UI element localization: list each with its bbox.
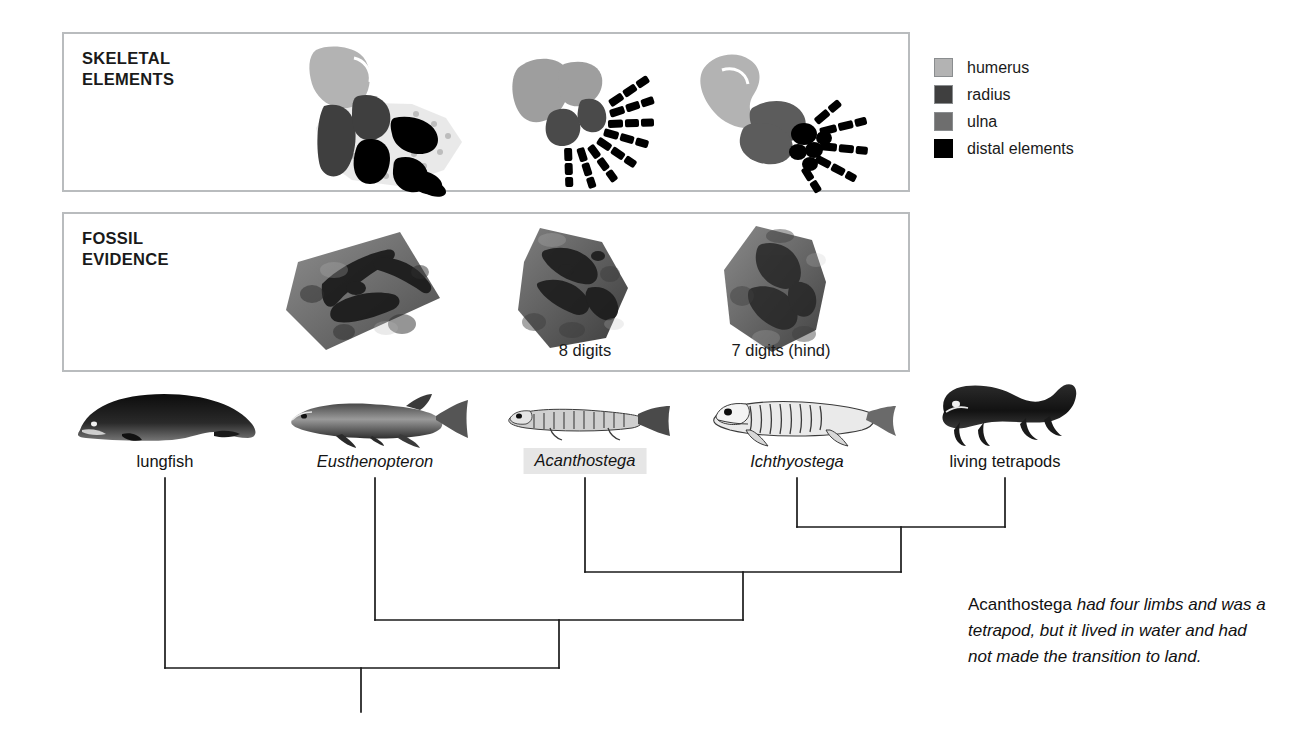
- acanthostega-limb-diagram: [502, 52, 667, 182]
- caption-lead: Acanthostega: [968, 595, 1072, 614]
- fossil-digit-label-ichthyostega: 7 digits (hind): [691, 341, 871, 360]
- legend-item-humerus: humerus: [934, 54, 1184, 81]
- taxon-label-acanthostega: Acanthostega: [524, 448, 647, 474]
- legend-item-ulna: ulna: [934, 108, 1184, 135]
- skeletal-elements-panel: SKELETAL ELEMENTS: [62, 32, 910, 192]
- salamander-silhouette: [930, 378, 1080, 450]
- legend-item-distal-elements: distal elements: [934, 135, 1184, 162]
- living-tetrapod-limb-diagram: [692, 48, 877, 188]
- legend: humerus radius ulna distal elements: [934, 54, 1184, 162]
- lungfish-silhouette: [72, 388, 262, 448]
- legend-item-radius: radius: [934, 81, 1184, 108]
- legend-label-ulna: ulna: [967, 114, 997, 130]
- caption: Acanthostega had four limbs and was a te…: [968, 592, 1268, 669]
- ichthyostega-fossil-photo: [708, 226, 853, 356]
- taxon-label-ichthyostega: Ichthyostega: [750, 452, 844, 471]
- taxon-label-eusthenopteron: Eusthenopteron: [317, 452, 434, 471]
- legend-label-humerus: humerus: [967, 60, 1029, 76]
- legend-swatch-humerus: [934, 58, 953, 77]
- legend-label-radius: radius: [967, 87, 1011, 103]
- legend-swatch-radius: [934, 85, 953, 104]
- figure-root: SKELETAL ELEMENTS: [0, 0, 1300, 756]
- taxon-label-living-tetrapods: living tetrapods: [950, 452, 1061, 471]
- legend-swatch-distal-elements: [934, 139, 953, 158]
- fossil-digit-label-acanthostega: 8 digits: [525, 341, 645, 360]
- ichthyostega-skeleton: [706, 392, 896, 448]
- acanthostega-fossil-photo: [506, 226, 646, 351]
- fossil-evidence-title: FOSSIL EVIDENCE: [82, 228, 169, 270]
- eusthenopteron-limb-diagram: [294, 44, 479, 189]
- legend-label-distal-elements: distal elements: [967, 141, 1074, 157]
- legend-swatch-ulna: [934, 112, 953, 131]
- eusthenopteron-silhouette: [286, 392, 472, 448]
- skeletal-elements-title: SKELETAL ELEMENTS: [82, 48, 174, 90]
- acanthostega-skeleton: [504, 398, 674, 444]
- taxon-label-lungfish: lungfish: [137, 452, 194, 471]
- eusthenopteron-fossil-photo: [282, 232, 442, 352]
